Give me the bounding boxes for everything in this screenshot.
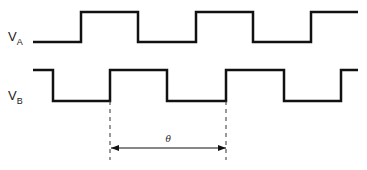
phase-markers <box>110 101 226 160</box>
waveform-vb <box>33 70 358 101</box>
waveform-va <box>33 12 358 42</box>
theta-label: θ <box>166 134 171 144</box>
waveform-diagram <box>0 0 367 170</box>
